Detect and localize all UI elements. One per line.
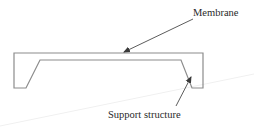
support-arrow xyxy=(176,77,191,106)
membrane-support-outline xyxy=(14,53,203,88)
support-structure-label: Support structure xyxy=(108,110,181,121)
membrane-label: Membrane xyxy=(193,8,238,19)
diagram-canvas xyxy=(0,0,254,127)
membrane-arrow xyxy=(124,19,193,52)
